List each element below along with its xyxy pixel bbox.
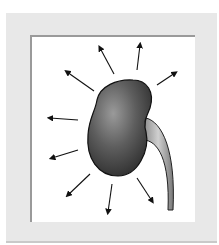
kidney-illustration bbox=[0, 0, 219, 245]
kidney-icon bbox=[88, 80, 152, 176]
arrow-icon bbox=[108, 184, 112, 212]
arrow-icon bbox=[68, 174, 90, 195]
ureter-icon bbox=[143, 118, 173, 210]
arrow-icon bbox=[157, 73, 175, 85]
arrow-icon bbox=[67, 72, 94, 91]
arrow-icon bbox=[52, 150, 78, 158]
arrow-icon bbox=[137, 45, 140, 70]
arrow-icon bbox=[50, 118, 78, 120]
arrow-icon bbox=[137, 178, 152, 201]
arrow-icon bbox=[100, 48, 114, 74]
